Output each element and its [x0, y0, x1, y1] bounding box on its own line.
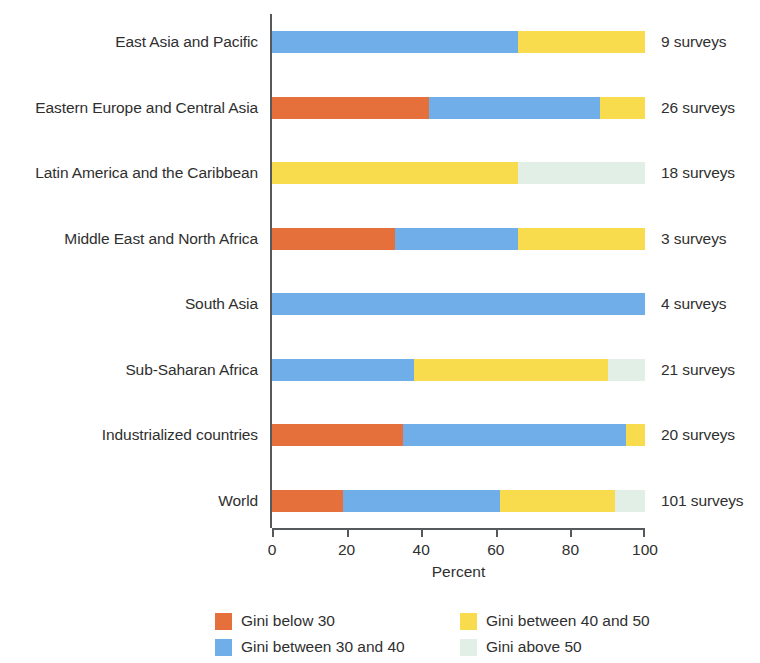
bar-segment — [518, 228, 645, 250]
bar-segment — [272, 162, 518, 184]
x-tick-label: 100 — [632, 541, 658, 559]
bar-segment — [429, 97, 601, 119]
survey-count-label: 18 surveys — [661, 164, 735, 182]
bar-row: Latin America and the Caribbean18 survey… — [272, 162, 645, 184]
survey-count-label: 4 surveys — [661, 295, 726, 313]
stacked-bar — [272, 490, 645, 512]
survey-count-label: 26 surveys — [661, 99, 735, 117]
legend-item: Gini above 50 — [460, 638, 715, 656]
stacked-bar — [272, 97, 645, 119]
y-axis-line — [270, 14, 272, 528]
bar-row: Sub-Saharan Africa21 surveys — [272, 359, 645, 381]
legend-swatch-icon — [460, 613, 477, 630]
stacked-bar — [272, 424, 645, 446]
x-tick-label: 60 — [487, 541, 504, 559]
x-tick-label: 40 — [413, 541, 430, 559]
bar-row: Industrialized countries20 surveys — [272, 424, 645, 446]
bar-segment — [500, 490, 616, 512]
bar-segment — [272, 97, 429, 119]
x-tick — [570, 528, 572, 537]
legend-item: Gini below 30 — [215, 612, 460, 630]
stacked-bar — [272, 359, 645, 381]
bar-segment — [414, 359, 608, 381]
bar-row-label: Middle East and North Africa — [64, 230, 258, 248]
bar-row: World101 surveys — [272, 490, 645, 512]
stacked-bar — [272, 293, 645, 315]
bar-segment — [615, 490, 645, 512]
chart-legend: Gini below 30Gini between 40 and 50Gini … — [215, 608, 715, 660]
legend-item: Gini between 30 and 40 — [215, 638, 460, 656]
bar-row-label: Latin America and the Caribbean — [35, 164, 258, 182]
x-tick-label: 0 — [268, 541, 277, 559]
bar-segment — [343, 490, 500, 512]
bar-row: South Asia4 surveys — [272, 293, 645, 315]
bar-segment — [403, 424, 627, 446]
bar-segment — [272, 31, 518, 53]
bar-segment — [626, 424, 645, 446]
x-tick-label: 80 — [562, 541, 579, 559]
bar-row: East Asia and Pacific9 surveys — [272, 31, 645, 53]
legend-item: Gini between 40 and 50 — [460, 612, 715, 630]
x-tick — [272, 528, 274, 537]
x-tick — [643, 528, 645, 537]
bar-segment — [272, 293, 645, 315]
bar-row-label: Industrialized countries — [102, 426, 258, 444]
x-tick — [347, 528, 349, 537]
bar-row-label: East Asia and Pacific — [115, 33, 258, 51]
legend-label: Gini above 50 — [486, 638, 582, 656]
x-tick — [496, 528, 498, 537]
stacked-bar — [272, 31, 645, 53]
x-tick — [421, 528, 423, 537]
bar-row-label: Eastern Europe and Central Asia — [35, 99, 258, 117]
bar-segment — [272, 228, 395, 250]
survey-count-label: 21 surveys — [661, 361, 735, 379]
bar-row-label: World — [218, 492, 258, 510]
legend-label: Gini below 30 — [241, 612, 335, 630]
legend-swatch-icon — [215, 639, 232, 656]
stacked-bar — [272, 228, 645, 250]
bar-segment — [608, 359, 645, 381]
bar-segment — [272, 490, 343, 512]
legend-label: Gini between 40 and 50 — [486, 612, 650, 630]
legend-swatch-icon — [215, 613, 232, 630]
survey-count-label: 20 surveys — [661, 426, 735, 444]
x-axis: 020406080100 — [272, 528, 645, 529]
bar-segment — [272, 424, 403, 446]
bar-row: Middle East and North Africa3 surveys — [272, 228, 645, 250]
bar-row-label: Sub-Saharan Africa — [125, 361, 258, 379]
x-axis-title: Percent — [272, 563, 645, 581]
bar-segment — [272, 359, 414, 381]
bar-segment — [518, 31, 645, 53]
gini-distribution-chart: East Asia and Pacific9 surveysEastern Eu… — [0, 0, 760, 663]
x-axis-line — [272, 528, 645, 530]
survey-count-label: 101 surveys — [661, 492, 743, 510]
x-tick-label: 20 — [338, 541, 355, 559]
bar-row-label: South Asia — [185, 295, 258, 313]
bar-segment — [600, 97, 645, 119]
bar-segment — [518, 162, 645, 184]
legend-label: Gini between 30 and 40 — [241, 638, 405, 656]
legend-swatch-icon — [460, 639, 477, 656]
stacked-bar — [272, 162, 645, 184]
plot-area: East Asia and Pacific9 surveysEastern Eu… — [272, 14, 645, 528]
bar-segment — [395, 228, 518, 250]
survey-count-label: 9 surveys — [661, 33, 726, 51]
survey-count-label: 3 surveys — [661, 230, 726, 248]
bar-row: Eastern Europe and Central Asia26 survey… — [272, 97, 645, 119]
